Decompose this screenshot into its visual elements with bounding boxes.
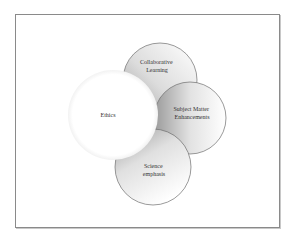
ethics-label: Ethics	[101, 112, 117, 118]
venn-diagram: Ethics Collaborative Learning Subject Ma…	[0, 0, 292, 240]
